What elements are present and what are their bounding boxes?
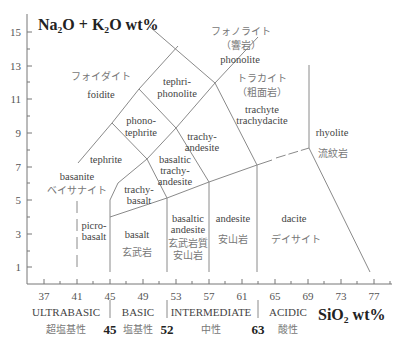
x-tick: 57	[204, 290, 216, 302]
acidic-jp-label: 酸性	[278, 323, 298, 335]
rhyolite-jp-label: 流紋岩	[318, 147, 348, 159]
basanite-label: basanite	[60, 171, 95, 182]
x-tick: 77	[369, 290, 381, 302]
intermediate-label: INTERMEDIATE	[171, 306, 252, 318]
y-axis-title: Na₂O + K₂O wt%	[38, 16, 158, 33]
x-tick: 65	[270, 290, 282, 302]
y-tick-labels: 15 13 11 9 7 5 3 1	[10, 26, 22, 273]
basic-jp-label: 塩基性	[123, 323, 153, 335]
basaltic-trachyandesite-label-2: trachy-	[160, 165, 190, 176]
x-axis-title: SiO₂ wt%	[318, 306, 385, 323]
basaltic-andesite-jp-label-2: 安山岩	[173, 249, 203, 261]
trachyandesite-label-2: andesite	[185, 142, 220, 153]
y-tick: 5	[16, 194, 22, 206]
basaltic-trachyandesite-label-3: andesite	[158, 176, 193, 187]
x-tick: 49	[138, 290, 150, 302]
basic-label: BASIC	[122, 306, 154, 318]
phonolite-label: phonolite	[220, 54, 260, 65]
dacite-jp-label: デイサイト	[271, 233, 321, 245]
phonolite-jp-label: フォノライト	[211, 26, 271, 37]
silica-classes: ULTRABASIC 超塩基性 45 BASIC 塩基性 52 INTERMED…	[32, 306, 307, 337]
boundary-52: 52	[161, 322, 174, 337]
trachybasalt-label-2: basalt	[127, 195, 152, 206]
field-labels: フォノライト （響岩） phonolite フォイダイト foidite tep…	[47, 26, 349, 261]
trachyte-jp-label: トラカイト	[237, 73, 287, 84]
trachybasalt-label-1: trachy-	[124, 184, 154, 195]
tas-diagram: 15 13 11 9 7 5 3 1 37 41 45 49 53 57 61 …	[0, 0, 405, 346]
trachyandesite-label-1: trachy-	[187, 131, 217, 142]
x-tick: 61	[237, 290, 248, 302]
y-tick: 7	[16, 161, 22, 173]
intermediate-jp-label: 中性	[201, 323, 221, 335]
x-tick: 37	[39, 290, 51, 302]
dacite-label: dacite	[281, 213, 306, 224]
acidic-label: ACIDIC	[269, 306, 307, 318]
andesite-label: andesite	[216, 213, 251, 224]
tephriphonolite-label-2: phonolite	[157, 88, 197, 99]
y-tick: 9	[16, 127, 22, 139]
x-tick: 73	[336, 290, 348, 302]
x-tick: 41	[72, 290, 83, 302]
phonotephrite-label-2: tephrite	[125, 127, 157, 138]
picrobasalt-label-2: basalt	[82, 231, 107, 242]
boundary-45: 45	[104, 322, 118, 337]
basalt-jp-label: 玄武岩	[122, 246, 152, 258]
ultrabasic-jp-label: 超塩基性	[46, 323, 86, 335]
trachyte-jp2-label: （粗面岩）	[237, 86, 287, 98]
phonotephrite-label-1: phono-	[126, 115, 156, 126]
foidite-label: foidite	[87, 89, 115, 100]
andesite-jp-label: 安山岩	[218, 233, 248, 245]
trachyte-label-2: trachydacite	[236, 115, 288, 126]
x-tick: 53	[171, 290, 183, 302]
x-tick: 69	[303, 290, 315, 302]
rhyolite-label: rhyolite	[316, 127, 349, 138]
basaltic-trachyandesite-label-1: basaltic	[159, 154, 191, 165]
y-tick: 11	[10, 93, 21, 105]
tephrite-label: tephrite	[90, 154, 122, 165]
basalt-label: basalt	[125, 229, 150, 240]
x-tick: 45	[105, 290, 117, 302]
y-tick: 3	[16, 228, 22, 240]
basaltic-andesite-jp-label-1: 玄武岩質	[168, 237, 208, 249]
y-tick: 1	[16, 261, 22, 273]
basanite-jp-label: ベイサナイト	[47, 185, 107, 196]
picrobasalt-label-1: picro-	[81, 220, 107, 231]
y-tick: 13	[10, 60, 22, 72]
tephriphonolite-label-1: tephri-	[163, 76, 191, 87]
boundary-63: 63	[252, 322, 266, 337]
y-tick: 15	[10, 26, 22, 38]
trachyte-label-1: trachyte	[245, 104, 279, 115]
foidite-jp-label: フォイダイト	[71, 70, 131, 82]
basaltic-andesite-label-2: andesite	[171, 224, 206, 235]
ultrabasic-label: ULTRABASIC	[32, 306, 100, 318]
basaltic-andesite-label-1: basaltic	[172, 213, 204, 224]
phonolite-jp2-label: （響岩）	[221, 39, 261, 51]
x-tick-labels: 37 41 45 49 53 57 61 65 69 73 77	[39, 290, 381, 302]
